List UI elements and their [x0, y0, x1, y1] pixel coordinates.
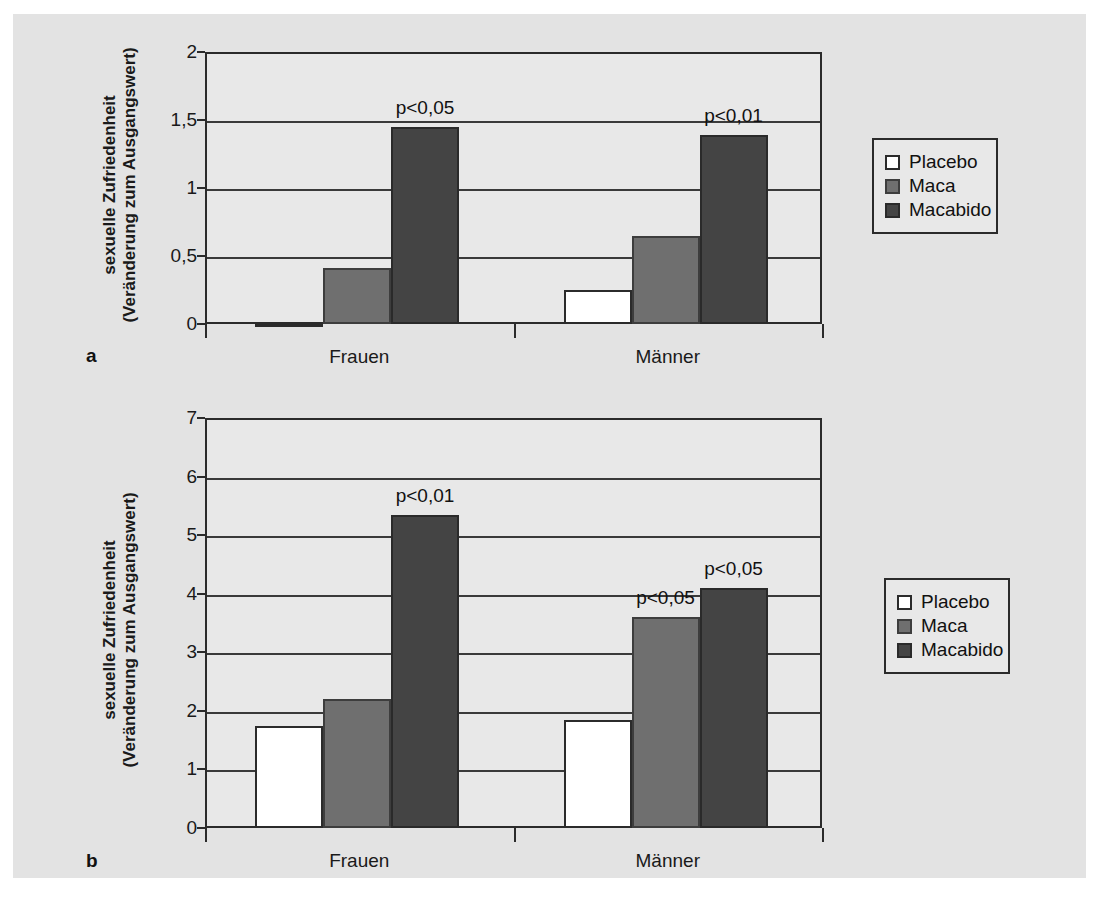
- bar-frauen-placebo: [255, 323, 323, 327]
- bar-frauen-placebo: [255, 726, 323, 829]
- legend-swatch-placebo-icon: [897, 595, 912, 610]
- y-axis-tick-label: 7: [159, 407, 197, 429]
- bar-männer-maca: [632, 236, 700, 324]
- panel-a-axis-title-line2: (Veränderung zum Ausgangswert): [120, 40, 140, 330]
- y-axis-tick-mark: [197, 323, 205, 325]
- x-axis-tick-mark: [822, 828, 824, 842]
- bar-frauen-macabido: [391, 515, 459, 828]
- panel-b-axis-title-line2: (Veränderung zum Ausgangswert): [120, 430, 140, 830]
- x-axis-category-label: Frauen: [329, 850, 389, 872]
- bar-männer-macabido: [700, 588, 768, 828]
- x-axis-category-label: Männer: [636, 850, 700, 872]
- legend-swatch-macabido-icon: [897, 643, 912, 658]
- gridline: [207, 478, 820, 480]
- y-axis-tick-mark: [197, 593, 205, 595]
- legend-swatch-maca-icon: [885, 179, 900, 194]
- panel-a-letter: a: [86, 345, 97, 367]
- p-value-annotation: p<0,05: [704, 558, 763, 580]
- legend-label-macabido: Macabido: [909, 199, 991, 221]
- panel-a-axis-title: sexuelle Zufriedenheit (Veränderung zum …: [100, 40, 140, 330]
- legend-swatch-macabido-icon: [885, 203, 900, 218]
- panel-a-legend: Placebo Maca Macabido: [872, 138, 998, 234]
- bar-männer-placebo: [564, 720, 632, 828]
- y-axis-tick-label: 6: [159, 466, 197, 488]
- y-axis-tick-label: 3: [159, 641, 197, 663]
- y-axis-tick-label: 0: [159, 313, 197, 335]
- legend-swatch-placebo-icon: [885, 155, 900, 170]
- p-value-annotation: p<0,05: [396, 97, 455, 119]
- legend-item-placebo: Placebo: [885, 151, 982, 173]
- x-axis-tick-mark: [205, 828, 207, 842]
- y-axis-tick-label: 5: [159, 524, 197, 546]
- y-axis-tick-label: 0,5: [159, 245, 197, 267]
- legend-label-maca: Maca: [909, 175, 955, 197]
- y-axis-tick-mark: [197, 119, 205, 121]
- y-axis-tick-mark: [197, 187, 205, 189]
- y-axis-tick-mark: [197, 476, 205, 478]
- y-axis-tick-mark: [197, 710, 205, 712]
- x-axis-tick-mark: [822, 324, 824, 338]
- panel-b-axis-title-line1: sexuelle Zufriedenheit: [100, 430, 120, 830]
- panel-b-letter: b: [86, 850, 98, 872]
- legend-label-placebo: Placebo: [921, 591, 990, 613]
- bar-frauen-macabido: [391, 127, 459, 324]
- y-axis-tick-label: 1: [159, 758, 197, 780]
- bar-männer-macabido: [700, 135, 768, 324]
- y-axis-tick-label: 1: [159, 177, 197, 199]
- p-value-annotation: p<0,01: [396, 485, 455, 507]
- p-value-annotation: p<0,01: [704, 105, 763, 127]
- x-axis-category-label: Männer: [636, 346, 700, 368]
- y-axis-tick-label: 2: [159, 700, 197, 722]
- legend-item-macabido: Macabido: [885, 199, 982, 221]
- legend-item-maca: Maca: [897, 615, 994, 637]
- bar-frauen-maca: [323, 699, 391, 828]
- bar-frauen-maca: [323, 268, 391, 324]
- y-axis-tick-label: 1,5: [159, 109, 197, 131]
- legend-item-macabido: Macabido: [897, 639, 994, 661]
- panel-a-axis-title-line1: sexuelle Zufriedenheit: [100, 40, 120, 330]
- y-axis-tick-mark: [197, 827, 205, 829]
- y-axis-tick-label: 4: [159, 583, 197, 605]
- legend-label-maca: Maca: [921, 615, 967, 637]
- x-axis-tick-mark: [514, 324, 516, 338]
- bar-männer-placebo: [564, 290, 632, 324]
- y-axis-tick-mark: [197, 417, 205, 419]
- x-axis-category-label: Frauen: [329, 346, 389, 368]
- y-axis-tick-mark: [197, 255, 205, 257]
- p-value-annotation: p<0,05: [636, 587, 695, 609]
- legend-label-placebo: Placebo: [909, 151, 978, 173]
- y-axis-tick-mark: [197, 768, 205, 770]
- y-axis-tick-label: 0: [159, 817, 197, 839]
- bar-männer-maca: [632, 617, 700, 828]
- panel-b-legend: Placebo Maca Macabido: [884, 578, 1010, 674]
- panel-b-axis-title: sexuelle Zufriedenheit (Veränderung zum …: [100, 430, 140, 830]
- y-axis-tick-mark: [197, 51, 205, 53]
- gridline: [207, 536, 820, 538]
- legend-label-macabido: Macabido: [921, 639, 1003, 661]
- y-axis-tick-mark: [197, 651, 205, 653]
- y-axis-tick-mark: [197, 534, 205, 536]
- legend-item-maca: Maca: [885, 175, 982, 197]
- x-axis-tick-mark: [514, 828, 516, 842]
- legend-swatch-maca-icon: [897, 619, 912, 634]
- legend-item-placebo: Placebo: [897, 591, 994, 613]
- x-axis-tick-mark: [205, 324, 207, 338]
- y-axis-tick-label: 2: [159, 41, 197, 63]
